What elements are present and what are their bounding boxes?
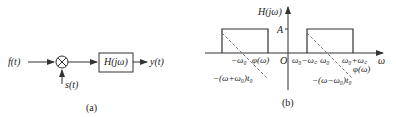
input-label: f(t)	[8, 57, 20, 67]
modulator-label: s(t)	[65, 80, 78, 90]
x-axis-label: ω	[378, 56, 385, 66]
phase-right-label: φ(ω)	[353, 65, 370, 74]
diagram-canvas	[0, 0, 396, 117]
caption-a: (a)	[86, 103, 97, 113]
y-axis-label: H(jω)	[258, 7, 282, 17]
phase-left-label: φ(ω)	[252, 56, 269, 65]
block-diagram	[28, 53, 147, 84]
caption-b: (b)	[282, 98, 294, 108]
tick-neg-w0: −ω₀	[231, 56, 247, 65]
phase-left-expr: −(ω+ω₀)t₀	[213, 74, 253, 83]
tick-w0-minus-wc: ω₀−ω꜀	[292, 56, 317, 65]
left-passband	[222, 29, 268, 53]
right-passband	[307, 29, 353, 53]
phase-right-expr: −(ω−ω₀)t₀	[312, 76, 352, 85]
filter-label: H(jω)	[104, 57, 128, 67]
tick-w0: ω₀	[320, 56, 329, 65]
output-label: y(t)	[150, 57, 164, 67]
origin-label: O	[280, 56, 287, 66]
amplitude-label: A	[277, 25, 283, 35]
